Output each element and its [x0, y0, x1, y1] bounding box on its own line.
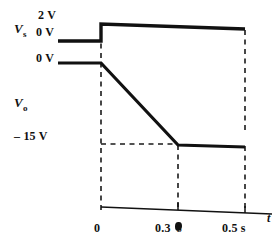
vs-high-level-label: 2 V	[38, 9, 56, 21]
vs-low-level-label: 0 V	[36, 26, 54, 38]
origin-tick-label: 0	[94, 222, 100, 234]
construction-lines	[101, 30, 245, 210]
tick-label-05s: 0.5 s	[222, 222, 246, 234]
vo-waveform	[58, 63, 245, 147]
vo-final-level-label: – 15 V	[14, 130, 48, 142]
vs-axis-label: Vs	[14, 22, 27, 39]
vo-start-level-label: 0 V	[36, 52, 54, 64]
vo-axis-label: Vo	[14, 96, 28, 113]
time-axis-label: t	[267, 212, 271, 224]
vs-waveform	[58, 24, 245, 41]
time-axis	[101, 203, 272, 214]
